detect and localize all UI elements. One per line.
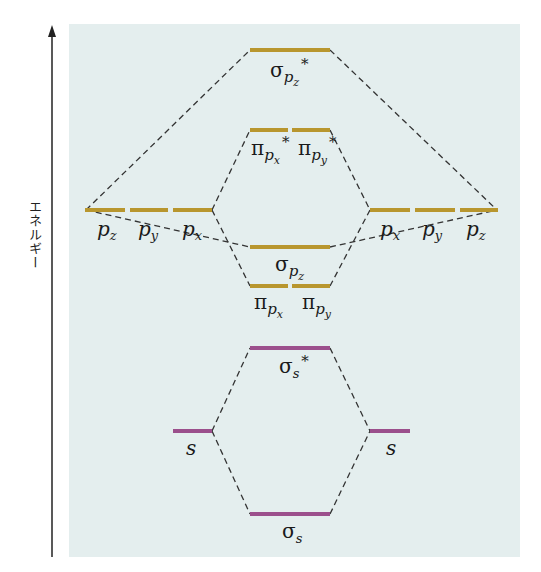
label-s-left: s	[186, 436, 196, 460]
label-px-right: px	[380, 217, 401, 243]
label-s-right: s	[386, 436, 396, 460]
label-sigma-pz: σpz	[275, 252, 304, 283]
label-sigma-s: σs	[282, 519, 303, 546]
label-sigma-pz-star: σpz*	[270, 55, 309, 89]
label-pz-left: pz	[97, 217, 117, 243]
label-sigma-s-star: σs*	[279, 352, 309, 381]
orbital-labels: σpz* πpx* πpy* pz py px px py pz σpz πpx…	[97, 55, 486, 546]
label-pi-px-star: πpx*	[251, 133, 290, 167]
label-pi-py-star: πpy*	[298, 133, 337, 167]
connector-lines	[86, 50, 497, 514]
energy-axis-arrow	[48, 25, 56, 557]
label-py-left: py	[138, 217, 159, 243]
label-py-right: py	[422, 217, 443, 243]
label-pi-px: πpx	[254, 290, 284, 321]
label-px-left: px	[182, 217, 203, 243]
diagram-canvas: σpz* πpx* πpy* pz py px px py pz σpz πpx…	[0, 0, 541, 572]
label-pz-right: pz	[466, 217, 486, 243]
label-pi-py: πpy	[302, 290, 332, 321]
mo-diagram: エネルギー	[0, 0, 541, 572]
